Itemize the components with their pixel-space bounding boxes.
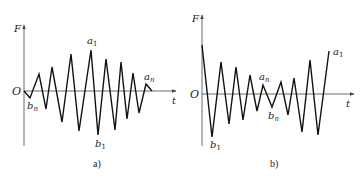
load-waveform-a: [24, 50, 152, 135]
origin-label-a: O: [12, 85, 21, 98]
x-axis-label-b: t: [346, 98, 351, 109]
label-b1-b: b1: [210, 139, 221, 152]
load-waveform-b: [202, 45, 329, 137]
panel-a: F t O a1 b1 an bn a): [12, 23, 177, 170]
panel-b: F t O a1 b1 an bn b): [190, 13, 354, 170]
label-b1-a: b1: [95, 138, 106, 151]
label-bn-a: bn: [27, 100, 38, 113]
caption-b: b): [270, 158, 278, 170]
label-an-b: an: [259, 71, 270, 84]
y-axis-label-a: F: [13, 23, 22, 34]
x-axis-label-a: t: [172, 95, 177, 106]
y-axis-label-b: F: [191, 13, 200, 24]
label-bn-b: bn: [268, 110, 279, 123]
label-an-a: an: [144, 71, 155, 84]
diagram-canvas: F t O a1 b1 an bn a) F t O a1 b1 an bn b…: [0, 0, 364, 178]
caption-a: a): [93, 158, 101, 170]
label-a1-b: a1: [333, 46, 343, 59]
label-a1-a: a1: [87, 35, 97, 48]
origin-label-b: O: [190, 88, 199, 101]
